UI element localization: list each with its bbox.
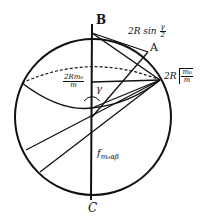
label-horizontal-segment: 2Rm₀ m — [63, 73, 84, 89]
radius-prefix: 2R — [164, 71, 177, 81]
horizontal-fraction: 2Rm₀ m — [63, 74, 84, 89]
diagram-canvas — [0, 0, 210, 219]
sqrt-symbol: m₀ m — [179, 68, 192, 84]
chord-ba-fraction: γ 2 — [160, 24, 166, 39]
sphere-outline — [15, 39, 171, 195]
force-subscript: m₀αβ — [101, 153, 119, 161]
horizontal-den: m — [70, 82, 77, 89]
label-a: A — [150, 42, 158, 53]
label-radius-sqrt: 2R m₀ m — [164, 68, 193, 84]
radius-fraction: m₀ m — [181, 69, 192, 84]
line-rim-to-lower-left-1 — [26, 80, 160, 150]
label-angle-gamma: γ — [96, 84, 102, 94]
horizontal-segment — [92, 80, 160, 82]
label-chord-ba: 2R sin γ 2 — [128, 24, 166, 39]
diameter-bc — [91, 24, 92, 200]
label-b: B — [96, 14, 106, 26]
chord-ba-prefix: 2R sin — [128, 26, 157, 36]
chord-ba-den: 2 — [160, 32, 164, 39]
label-vertical-force: fm₀αβ — [97, 148, 119, 161]
label-c: C — [88, 202, 97, 214]
line-rim-to-axis — [92, 80, 160, 108]
radius-den: m — [184, 77, 191, 84]
